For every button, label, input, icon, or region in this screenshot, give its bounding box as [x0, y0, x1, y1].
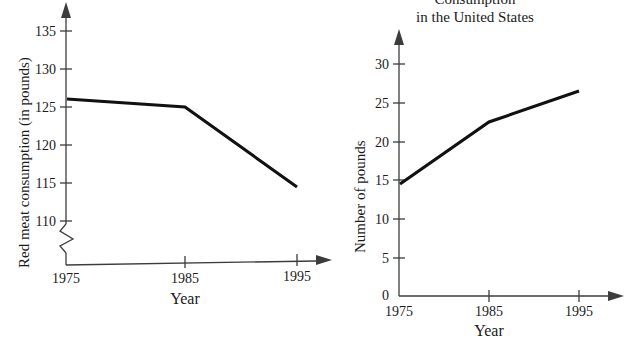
- chart-poultry-canvas: [0, 0, 625, 338]
- x-tick-label-1995-right: 1995: [546, 305, 612, 319]
- figure-two-line-charts: Red meat consumption (in pounds) 135 130…: [0, 0, 625, 338]
- y-tick-label-5: 5: [337, 252, 389, 266]
- series-poultry-line: [400, 91, 579, 184]
- y-tick-label-20: 20: [337, 136, 389, 150]
- x-tick-label-1975-right: 1975: [366, 305, 432, 319]
- x-tick-label-1985-right: 1985: [456, 305, 522, 319]
- y-tick-label-30: 30: [337, 58, 389, 72]
- x-axis-title-right: Year: [456, 322, 522, 338]
- y-axis-title-poultry: Number of pounds: [352, 141, 369, 254]
- x-axis-arrowhead-right: [608, 291, 624, 301]
- y-axis-arrowhead-right: [394, 29, 404, 45]
- y-tick-label-10: 10: [337, 213, 389, 227]
- y-tick-label-0: 0: [337, 289, 389, 303]
- y-tick-label-15: 15: [337, 174, 389, 188]
- y-tick-label-25: 25: [337, 97, 389, 111]
